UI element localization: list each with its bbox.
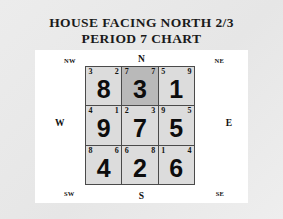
grid-cell: 146 (159, 146, 194, 184)
grid-cell: 591 (159, 67, 194, 105)
compass-label-se: SE (216, 190, 224, 197)
base-star-number: 4 (86, 154, 121, 184)
grid-cell: 773 (122, 67, 157, 105)
base-star-number: 5 (159, 114, 194, 144)
flying-star-chart-image: HOUSE FACING NORTH 2/3 PERIOD 7 CHART NW… (0, 0, 283, 219)
grid-cell: 955 (159, 106, 194, 144)
compass-label-e: E (226, 118, 232, 128)
compass-label-w: W (55, 118, 65, 128)
base-star-number: 6 (159, 154, 194, 184)
base-star-number: 8 (86, 75, 121, 105)
grid-cell: 864 (86, 146, 121, 184)
grid-cell: 237 (122, 106, 157, 144)
grid-cell: 419 (86, 106, 121, 144)
flying-star-grid: 328773591419237955864682146 (85, 66, 195, 185)
grid-cell: 682 (122, 146, 157, 184)
base-star-number: 1 (159, 75, 194, 105)
grid-cell: 328 (86, 67, 121, 105)
chart-title-line-1: HOUSE FACING NORTH 2/3 (0, 15, 283, 31)
chart-title-block: HOUSE FACING NORTH 2/3 PERIOD 7 CHART (0, 0, 283, 50)
base-star-number: 7 (122, 114, 157, 144)
chart-title-line-2: PERIOD 7 CHART (0, 31, 283, 47)
base-star-number: 2 (122, 154, 157, 184)
chart-panel: NW N NE W E SW S SE 32877359141923795586… (35, 50, 248, 203)
base-star-number: 3 (122, 75, 157, 105)
base-star-number: 9 (86, 114, 121, 144)
compass-label-ne: NE (215, 57, 224, 64)
